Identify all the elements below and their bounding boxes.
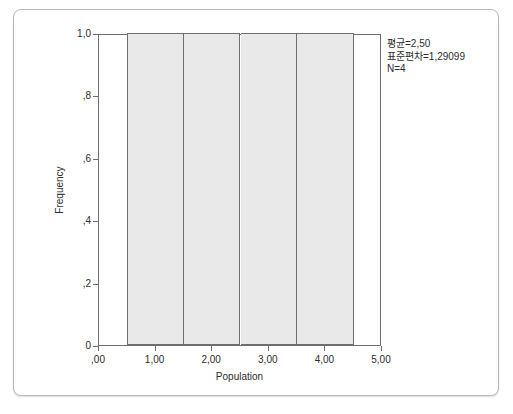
plot-frame [98,34,381,346]
y-axis-tick-label: ,6 [83,152,91,166]
y-axis-tick-label: 0 [85,339,91,353]
x-axis-tick-mark [155,346,156,351]
histogram-chart-card: Frequency 1,0,8,6,4,20 ,001,002,003,004,… [13,9,499,396]
x-axis-tick-mark [324,346,325,351]
histogram-bar [127,33,184,345]
x-axis-tick-mark [98,346,99,351]
histogram-bar [241,33,298,345]
x-axis-title: Population [98,370,381,384]
x-axis-tick-label: 2,00 [201,353,220,366]
y-axis: 1,0,8,6,4,20 [14,10,98,395]
x-axis-tick-label: ,00 [91,353,105,366]
x-axis-tick-mark [268,346,269,351]
x-axis-tick-label: 5,00 [371,353,390,366]
x-axis: ,001,002,003,004,005,00 [98,346,381,370]
x-axis-tick-label: 1,00 [145,353,164,366]
histogram-bar [184,33,241,345]
histogram-bar [297,33,354,345]
y-axis-tick-label: 1,0 [77,27,91,41]
statistics-annotation: 평균=2,50 표준편차=1,29099 N=4 [387,38,465,76]
annotation-stddev: 표준편차=1,29099 [387,51,465,64]
annotation-mean: 평균=2,50 [387,38,465,51]
x-axis-tick-mark [381,346,382,351]
x-axis-tick-label: 3,00 [258,353,277,366]
y-axis-tick-label: ,2 [83,277,91,291]
y-axis-tick-label: ,4 [83,214,91,228]
annotation-n: N=4 [387,63,465,76]
x-axis-tick-mark [211,346,212,351]
x-axis-tick-label: 4,00 [315,353,334,366]
plot-area [99,35,380,345]
y-axis-tick-label: ,8 [83,89,91,103]
